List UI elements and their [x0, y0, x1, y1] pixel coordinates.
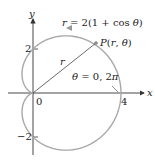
point-p [94, 41, 98, 45]
radius-label: r [60, 57, 65, 67]
radius-line [33, 43, 96, 93]
x-axis-label: x [147, 88, 153, 98]
tick-label-x4: 4 [121, 97, 127, 107]
tick-label-y2: 2 [25, 44, 31, 54]
y-axis-label: y [29, 9, 35, 19]
tick-label-origin: 0 [36, 97, 42, 107]
angle-leader [112, 86, 118, 92]
tick-label-yneg2: −2 [17, 132, 32, 142]
cardioid-diagram: y x r = 2(1 + cos θ) P(r, θ) r θ = 0, 2π… [0, 0, 155, 166]
angle-label: θ = 0, 2π [72, 72, 118, 82]
curve-equation: r = 2(1 + cos θ) [62, 18, 143, 28]
point-label: P(r, θ) [100, 38, 132, 48]
